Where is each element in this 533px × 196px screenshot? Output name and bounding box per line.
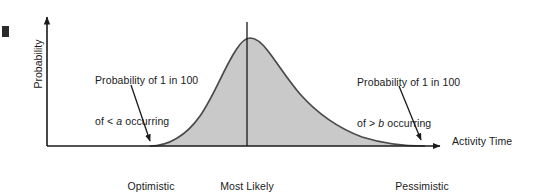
left-annotation-suffix: occurring (122, 115, 169, 127)
left-annotation: Probability of 1 in 100 of < a occurring (95, 47, 198, 155)
axis-label-optimistic: Optimistic Time (a) (110, 153, 192, 196)
left-annotation-prefix: of < (95, 115, 116, 127)
figure-container: Probability Activity Time Probability of… (0, 0, 533, 196)
left-annotation-line1: Probability of 1 in 100 (95, 74, 198, 88)
axis-label-pessimistic: Pessimistic Time (b) (381, 153, 463, 196)
right-annotation-prefix: of > (357, 117, 378, 129)
right-annotation-line2: of > b occurring (357, 117, 460, 131)
axis-label-most-likely: Most Likely Time (m) (206, 153, 288, 196)
axis-label-optimistic-line1: Optimistic (110, 180, 192, 194)
right-annotation-suffix: occurring (384, 117, 431, 129)
left-annotation-line2: of < a occurring (95, 115, 198, 129)
right-annotation-line1: Probability of 1 in 100 (357, 76, 460, 90)
axis-label-most-likely-line1: Most Likely (206, 180, 288, 194)
y-axis-label: Probability (32, 19, 44, 109)
right-annotation: Probability of 1 in 100 of > b occurring (357, 49, 460, 157)
axis-label-pessimistic-line1: Pessimistic (381, 180, 463, 194)
x-axis-label: Activity Time (452, 135, 512, 149)
